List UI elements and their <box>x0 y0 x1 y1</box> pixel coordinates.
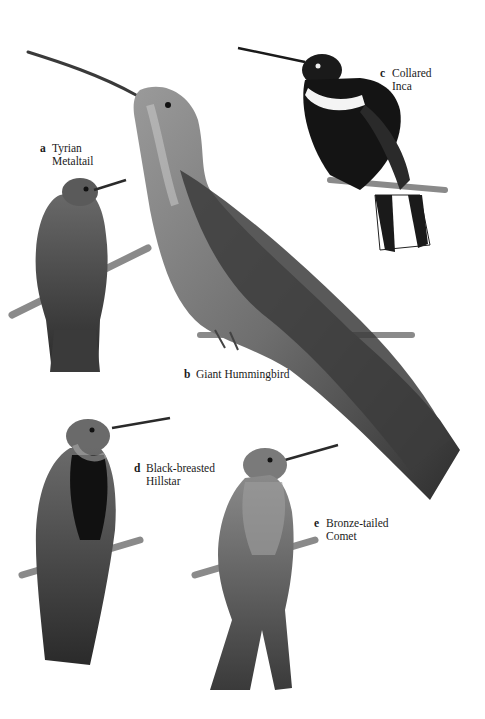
label-collared-inca: cCollaredInca <box>380 67 432 93</box>
species-name-line1: Collared <box>392 67 432 79</box>
species-name-line2: Inca <box>392 80 412 92</box>
species-name-line2: Comet <box>326 530 357 542</box>
illustration-plate: aTyrianMetaltail bGiant Hummingbird cCol… <box>0 0 485 719</box>
species-letter: a <box>40 142 52 155</box>
hummingbird-illustrations <box>0 0 485 719</box>
bird-black-breasted-hillstar <box>22 418 170 665</box>
label-black-breasted-hillstar: dBlack-breastedHillstar <box>134 462 215 488</box>
species-letter: b <box>184 368 196 381</box>
species-name-line2: Metaltail <box>52 155 94 167</box>
species-name-line2: Hillstar <box>146 475 181 487</box>
species-name-line1: Black-breasted <box>146 462 215 474</box>
species-name-line1: Tyrian <box>52 142 82 154</box>
species-letter: c <box>380 67 392 80</box>
species-letter: e <box>314 517 326 530</box>
species-name-line1: Bronze-tailed <box>326 517 389 529</box>
label-bronze-tailed-comet: eBronze-tailedComet <box>314 517 389 543</box>
label-giant-hummingbird: bGiant Hummingbird <box>184 368 290 381</box>
label-tyrian-metaltail: aTyrianMetaltail <box>40 142 94 168</box>
species-name-line1: Giant Hummingbird <box>196 368 290 381</box>
bird-tyrian-metaltail <box>12 178 148 372</box>
species-letter: d <box>134 462 146 475</box>
bird-bronze-tailed-comet <box>195 445 338 690</box>
